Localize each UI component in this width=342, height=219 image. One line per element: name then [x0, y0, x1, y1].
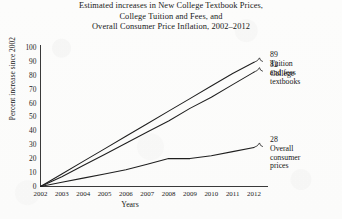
x-tick-label: 2005 — [98, 190, 112, 197]
series-line-college-textbooks — [41, 72, 255, 186]
annotation-leader-line — [254, 68, 263, 73]
series-line-overall-consumer-prices — [41, 147, 255, 186]
x-tick-label: 2004 — [76, 190, 90, 197]
x-tick-label: 2010 — [204, 190, 218, 197]
chart-plot-area: 0102030405060708090100 20022003200420052… — [0, 0, 342, 219]
y-tick-label: 20 — [29, 154, 37, 163]
series-line-tuition-and-fees — [41, 62, 255, 186]
y-tick-label: 70 — [29, 85, 37, 94]
x-tick-label: 2012 — [247, 190, 261, 197]
y-axis-tick-labels: 0102030405060708090100 — [25, 43, 36, 192]
line-chart-figure: Estimated increases in New College Textb… — [0, 0, 342, 219]
y-tick-label: 60 — [29, 99, 37, 108]
x-tick-label: 2009 — [183, 190, 197, 197]
annotation-leader-line — [254, 143, 263, 148]
data-series-group — [41, 62, 255, 186]
annotation-label: textbooks — [270, 77, 300, 86]
y-tick-label: 100 — [25, 43, 36, 52]
x-tick-label: 2007 — [140, 190, 154, 197]
x-tick-label: 2003 — [55, 190, 69, 197]
y-tick-label: 90 — [29, 57, 37, 66]
y-tick-label: 10 — [29, 168, 37, 177]
y-tick-label: 80 — [29, 71, 37, 80]
x-tick-label: 2011 — [226, 190, 240, 197]
series-annotations: 89Tuitionand fees82Collegetextbooks28Ove… — [254, 50, 301, 170]
y-tick-label: 40 — [29, 126, 37, 135]
x-tick-label: 2002 — [34, 190, 48, 197]
x-axis-tick-labels: 2002200320042005200620072008200920102011… — [34, 190, 262, 197]
annotation-leader-line — [254, 58, 263, 63]
annotation-label: prices — [270, 161, 289, 170]
y-tick-label: 30 — [29, 140, 37, 149]
x-tick-label: 2006 — [119, 190, 133, 197]
x-tick-label: 2008 — [162, 190, 176, 197]
y-tick-label: 50 — [29, 112, 37, 121]
